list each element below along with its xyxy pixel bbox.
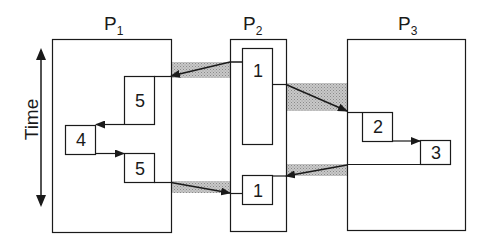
task-label-p1-5a: 5 [125, 92, 155, 110]
task-label-p1-4: 4 [66, 131, 96, 149]
time-axis-label: Time [22, 95, 41, 145]
process-letter: P [398, 13, 411, 34]
task-label-p2-1a: 1 [243, 62, 273, 80]
process-letter: P [104, 13, 117, 34]
task-label-p2-1b: 1 [243, 182, 273, 200]
process-label-p1: P1 [104, 14, 123, 37]
process-label-p3: P3 [398, 14, 417, 37]
process-letter: P [243, 13, 256, 34]
process-subscript: 1 [117, 24, 124, 38]
task-label-p1-5b: 5 [125, 160, 155, 178]
arrow-up-icon [36, 48, 46, 60]
arrow-down-icon [36, 195, 46, 207]
task-label-p3-3: 3 [421, 144, 451, 162]
process-subscript: 3 [411, 24, 418, 38]
process-subscript: 2 [256, 24, 263, 38]
task-label-p3-2: 2 [363, 118, 393, 136]
process-label-p2: P2 [243, 14, 262, 37]
